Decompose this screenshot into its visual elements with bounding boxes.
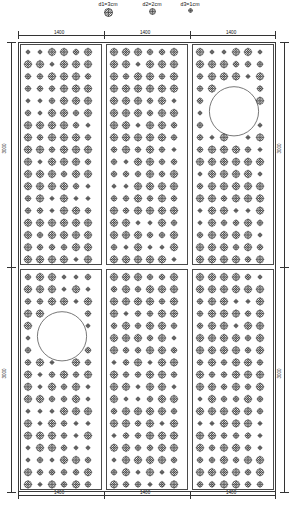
panel-r1-c0 <box>20 269 102 490</box>
dim-bottom-3: 1400 <box>225 490 237 495</box>
legend-item-d3: d3=1cm <box>168 1 212 13</box>
dim-top-1: 1400 <box>53 30 65 35</box>
medium-hatched-circle-icon <box>149 8 156 15</box>
panel-r0-c2 <box>192 44 274 265</box>
legend-label-d3: d3=1cm <box>168 1 212 7</box>
dim-right-2: 3000 <box>277 368 282 378</box>
small-hatched-circle-icon <box>188 8 193 13</box>
dim-top-2: 1400 <box>139 30 151 35</box>
dim-right-1: 3000 <box>277 143 282 153</box>
legend-item-d1: d1=3cm <box>86 1 130 17</box>
dim-left-2: 3000 <box>2 368 7 378</box>
legend: d1=3cm d2=2cm d3=1cm <box>0 0 294 20</box>
large-hatched-circle-icon <box>104 8 113 17</box>
dim-bottom-2: 1400 <box>139 490 151 495</box>
panel-r1-c2 <box>192 269 274 490</box>
legend-label-d1: d1=3cm <box>86 1 130 7</box>
dim-bottom-1: 1400 <box>53 490 65 495</box>
panel-r1-c1 <box>106 269 188 490</box>
dim-top-3: 1400 <box>225 30 237 35</box>
panel-r0-c1 <box>106 44 188 265</box>
technical-drawing-canvas: d1=3cm d2=2cm d3=1cm <box>0 0 294 507</box>
dim-left-1: 3000 <box>2 143 7 153</box>
panel-r0-c0 <box>20 44 102 265</box>
